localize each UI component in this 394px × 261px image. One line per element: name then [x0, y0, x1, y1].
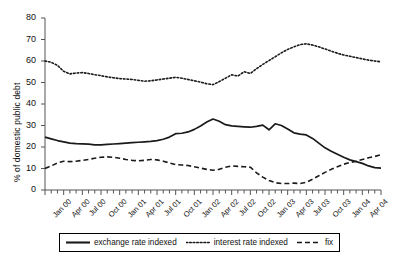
y-axis-tick-label: 10 [18, 164, 36, 173]
series-line-2 [45, 155, 381, 184]
legend-label: exchange rate indexed [94, 238, 177, 247]
y-axis-tick-label: 0 [18, 185, 36, 194]
legend-item-1: interest rate indexed [186, 238, 288, 247]
legend-label: interest rate indexed [214, 238, 288, 247]
y-axis-tick-label: 40 [18, 99, 36, 108]
series-line-1 [45, 44, 381, 85]
y-axis-tick-label: 20 [18, 142, 36, 151]
y-axis-tick-label: 60 [18, 56, 36, 65]
y-axis-tick-label: 30 [18, 121, 36, 130]
chart-legend: exchange rate indexedinterest rate index… [59, 233, 340, 252]
legend-label: fix [325, 238, 333, 247]
legend-item-2: fix [297, 238, 333, 247]
legend-swatch-dashed [297, 239, 321, 246]
legend-swatch-solid [66, 239, 90, 246]
legend-item-0: exchange rate indexed [66, 238, 177, 247]
plot-area [0, 0, 394, 261]
legend-swatch-dotted [186, 239, 210, 246]
chart-figure: % of domestic public debt 01020304050607… [0, 0, 394, 261]
y-axis-tick-label: 70 [18, 35, 36, 44]
y-axis-tick-label: 50 [18, 78, 36, 87]
y-axis-tick-label: 80 [18, 13, 36, 22]
series-line-0 [45, 119, 381, 168]
